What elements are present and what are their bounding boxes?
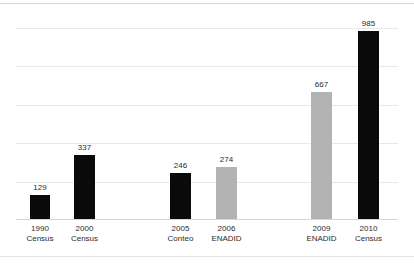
- gridline-1000: [16, 28, 398, 29]
- gridline-400: [16, 143, 398, 144]
- bar-value-label: 246: [174, 161, 187, 170]
- category-label-1990: 1990Census: [20, 224, 60, 244]
- bar-chart: 129337246274667985 1990Census2000Census2…: [0, 0, 414, 263]
- bar-value-label: 274: [220, 155, 233, 164]
- category-label-source: Conteo: [160, 234, 201, 244]
- category-label-year: 2010: [348, 224, 389, 234]
- category-label-2010: 2010Census: [348, 224, 389, 244]
- figure-bottom-border: [0, 256, 414, 257]
- category-label-2006: 2006ENADID: [206, 224, 247, 244]
- gridline-600: [16, 105, 398, 106]
- category-label-source: Census: [20, 234, 60, 244]
- category-label-source: Census: [64, 234, 105, 244]
- category-label-2000: 2000Census: [64, 224, 105, 244]
- bar-2005-conteo[interactable]: 246: [170, 173, 191, 220]
- category-label-source: ENADID: [301, 234, 342, 244]
- bar-2010-census[interactable]: 985: [358, 31, 379, 220]
- bar-1990-census[interactable]: 129: [30, 195, 50, 220]
- bar-value-label: 129: [33, 183, 46, 192]
- category-label-year: 2006: [206, 224, 247, 234]
- bar-value-label: 667: [315, 80, 328, 89]
- bar-value-label: 337: [78, 143, 91, 152]
- category-label-year: 2005: [160, 224, 201, 234]
- figure-top-border: [0, 3, 414, 4]
- category-label-year: 1990: [20, 224, 60, 234]
- category-label-2009: 2009ENADID: [301, 224, 342, 244]
- category-label-2005: 2005Conteo: [160, 224, 201, 244]
- bar-2006-enadid[interactable]: 274: [216, 167, 237, 220]
- x-axis-line: [16, 219, 398, 220]
- category-label-source: Census: [348, 234, 389, 244]
- bar-value-label: 985: [362, 19, 375, 28]
- category-label-year: 2009: [301, 224, 342, 234]
- category-label-source: ENADID: [206, 234, 247, 244]
- category-label-year: 2000: [64, 224, 105, 234]
- gridline-800: [16, 66, 398, 67]
- bar-2009-enadid[interactable]: 667: [311, 92, 332, 220]
- bar-2000-census[interactable]: 337: [74, 155, 95, 220]
- plot-area: 129337246274667985: [16, 18, 398, 220]
